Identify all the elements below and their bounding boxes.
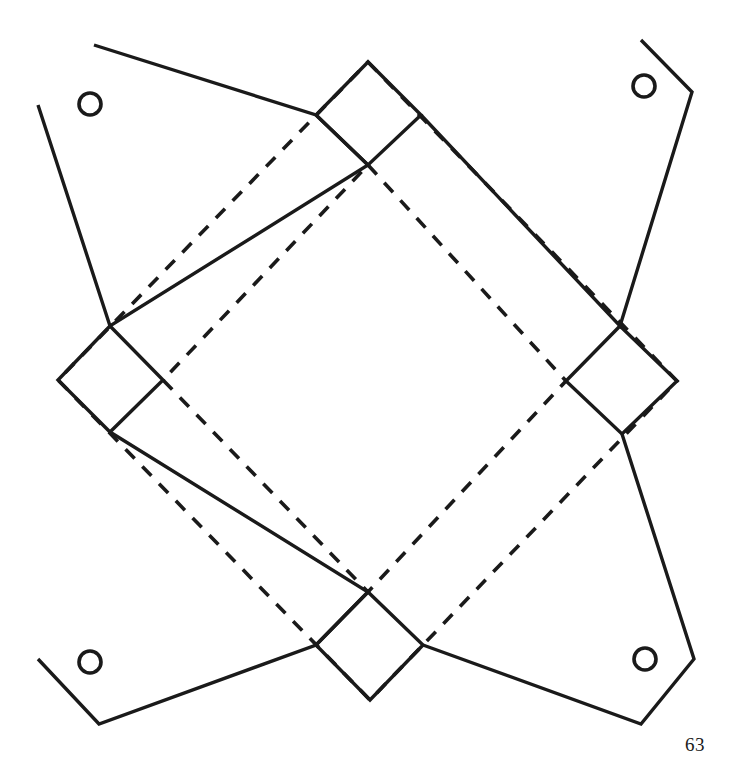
flap-bottom-right (423, 434, 694, 724)
fold-diamond-outer (58, 62, 677, 700)
flap-bottom-left (38, 432, 368, 724)
hole-bottom-left-icon (79, 651, 101, 673)
page-canvas: 63 (0, 0, 747, 782)
tab-north (316, 62, 421, 165)
flap-top-right (421, 40, 692, 326)
hole-top-right-icon (633, 75, 655, 97)
tab-east (566, 326, 677, 434)
tabs-group (58, 62, 677, 700)
hole-top-left-icon (79, 93, 101, 115)
flap-top-left (38, 45, 368, 326)
tab-south (316, 592, 423, 700)
hole-bottom-right-icon (634, 648, 656, 670)
fold-pattern-diagram (0, 0, 747, 782)
flaps-group (38, 40, 694, 724)
fold-lines-group (58, 62, 677, 700)
tab-west (58, 326, 163, 432)
page-number: 63 (685, 735, 705, 754)
fold-diamond-inner (163, 165, 566, 592)
